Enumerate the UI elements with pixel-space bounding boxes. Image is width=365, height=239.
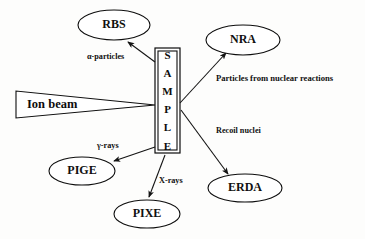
node-label-pige: PIGE	[67, 163, 96, 177]
sample-letter-l: L	[164, 121, 171, 133]
node-label-rbs: RBS	[102, 17, 126, 31]
node-erda: ERDA	[208, 174, 282, 202]
edge-label-edge-pige: γ-rays	[96, 141, 119, 150]
node-nra: NRA	[206, 25, 280, 55]
diagram-canvas: Ion beam SAMPLE α-particlesParticles fro…	[0, 0, 365, 239]
arrow-edge-pige	[114, 147, 155, 161]
edge-label-edge-erda: Recoil nuclei	[216, 126, 262, 135]
ion-beam-label: Ion beam	[27, 97, 78, 111]
node-label-nra: NRA	[230, 32, 256, 46]
node-pige: PIGE	[49, 157, 115, 185]
sample-letter-s: S	[164, 49, 170, 61]
sample-box-outer	[155, 48, 180, 153]
node-label-pixe: PIXE	[133, 206, 162, 220]
sample-letter-m: M	[162, 85, 173, 97]
edge-label-edge-rbs: α-particles	[87, 52, 124, 61]
node-pixe: PIXE	[114, 200, 180, 228]
ion-beam-source: Ion beam	[16, 91, 155, 118]
sample-letter-a: A	[164, 67, 172, 79]
edge-label-edge-pixe: X-rays	[159, 176, 183, 185]
diagram-svg: Ion beam SAMPLE α-particlesParticles fro…	[0, 0, 365, 239]
sample-letter-e: E	[164, 140, 171, 152]
edge-labels-layer: α-particlesParticles from nuclear reacti…	[87, 52, 334, 185]
node-label-erda: ERDA	[228, 180, 262, 194]
node-rbs: RBS	[78, 10, 150, 40]
edge-label-edge-nra: Particles from nuclear reactions	[216, 73, 334, 83]
arrow-edge-erda	[181, 110, 228, 174]
sample-letter-p: P	[164, 103, 171, 115]
sample-node: SAMPLE	[155, 48, 180, 153]
arrow-edge-rbs	[128, 42, 155, 62]
